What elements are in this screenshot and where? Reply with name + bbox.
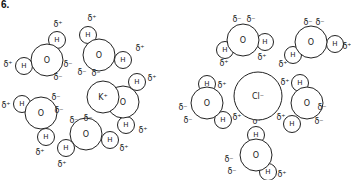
oxygen-label: O (308, 38, 314, 47)
delta-plus-label: δ⁺ (280, 78, 289, 87)
delta-minus-label: δ⁻ (63, 60, 72, 69)
hydrogen-label: H (107, 136, 112, 144)
delta-minus-label: δ⁻ (178, 103, 187, 112)
delta-minus-label: δ⁻ (224, 155, 233, 164)
delta-minus-label: δ⁻ (91, 69, 100, 78)
ion-hydration-drawing: HHOδ⁺δ⁺δ⁻δ⁻HHOδ⁺δ⁺δ⁻δ⁻HHOδ⁺δ⁺δ⁻δ⁻HHOδ⁺δ⁺… (0, 0, 351, 180)
hydrogen-label: H (222, 46, 227, 54)
delta-plus-label: δ⁺ (342, 42, 351, 51)
oxygen-label: O (83, 130, 89, 139)
delta-minus-label: δ⁻ (232, 15, 241, 24)
hydrogen-label: H (297, 79, 302, 87)
delta-plus-label: δ⁺ (53, 20, 62, 29)
delta-minus-label: δ⁻ (227, 167, 236, 176)
hydrogen-label: H (63, 144, 68, 152)
oxygen-label: O (96, 51, 102, 60)
oxygen-label: O (38, 109, 44, 118)
delta-plus-label: δ⁺ (217, 81, 226, 90)
delta-plus-label: δ⁺ (87, 14, 96, 23)
delta-minus-label: δ⁻ (315, 18, 324, 27)
water-molecule: HHOδ⁺δ⁺δ⁻δ⁻ (3, 20, 72, 82)
delta-plus-label: δ⁺ (119, 144, 128, 153)
hydrogen-label: H (120, 56, 125, 64)
delta-minus-label: δ⁻ (317, 103, 326, 112)
delta-plus-label: δ⁺ (232, 113, 241, 122)
water-molecule: HHOδ⁺δ⁺δ⁻δ⁻ (217, 15, 274, 68)
oxygen-label: O (204, 99, 210, 108)
hydrogen-label: H (265, 168, 270, 176)
delta-plus-label: δ⁺ (276, 113, 285, 122)
hydrogen-label: H (290, 51, 295, 59)
delta-minus-label: δ⁻ (303, 18, 312, 27)
delta-plus-label: δ⁺ (35, 148, 44, 157)
delta-plus-label: δ⁺ (219, 59, 228, 68)
oxygen-label: O (44, 56, 50, 65)
delta-minus-label: δ⁻ (246, 15, 255, 24)
hydrogen-label: H (220, 116, 225, 124)
cluster-0: HHOδ⁺δ⁺δ⁻δ⁻HHOδ⁺δ⁺δ⁻δ⁻HHOδ⁺δ⁺δ⁻δ⁻HHOδ⁺δ⁺… (1, 14, 156, 169)
hydrogen-label: H (253, 131, 258, 139)
hydrogen-label: H (262, 38, 267, 46)
hydrogen-label: H (123, 121, 128, 129)
delta-minus-label: δ⁻ (77, 68, 86, 77)
hydrogen-label: H (43, 133, 48, 141)
figure-number: 6. (1, 0, 9, 10)
water-molecule: HHOδ⁺δ⁺δ⁻δ⁻ (178, 76, 241, 129)
delta-minus-label: δ⁻ (54, 106, 63, 115)
delta-plus-label: δ⁺ (57, 160, 66, 169)
delta-minus-label: δ⁻ (183, 116, 192, 125)
delta-plus-label: δ⁺ (138, 126, 147, 135)
hydrogen-label: H (85, 31, 90, 39)
delta-plus-label: δ⁺ (1, 101, 10, 110)
oxygen-label: O (304, 99, 310, 108)
oxygen-label: O (253, 151, 259, 160)
hydrogen-label: H (19, 100, 24, 108)
delta-plus-label: δ⁺ (257, 53, 266, 62)
water-molecule: HHOδ⁺δ⁺δ⁻δ⁻ (276, 75, 326, 133)
ion-label: Cl⁻ (252, 92, 264, 101)
water-molecule: HHOδ⁺δ⁺δ⁻δ⁻ (1, 93, 63, 157)
cluster-1: HHOδ⁺δ⁺δ⁻δ⁻HHOδ⁺δ⁺δ⁻δ⁻HHOδ⁺δ⁺δ⁻δ⁻HHOδ⁺δ⁺… (178, 15, 351, 181)
delta-minus-label: δ⁻ (51, 93, 60, 102)
hydrogen-label: H (289, 120, 294, 128)
delta-minus-label: δ⁻ (69, 116, 78, 125)
hydrogen-label: H (332, 40, 337, 48)
water-molecule: HHOδ⁺δ⁺δ⁻δ⁻ (77, 14, 144, 78)
delta-plus-label: δ⁺ (3, 60, 12, 69)
hydrogen-label: H (134, 78, 139, 86)
delta-plus-label: δ⁺ (278, 60, 287, 69)
hydration-diagram: 6. HHOδ⁺δ⁺δ⁻δ⁻HHOδ⁺δ⁺δ⁻δ⁻HHOδ⁺δ⁺δ⁻δ⁻HHOδ… (0, 0, 351, 180)
delta-plus-label: δ⁺ (147, 74, 156, 83)
delta-minus-label: δ⁻ (314, 117, 323, 126)
water-molecule: HHOδ⁺δ⁺δ⁻δ⁻ (278, 18, 351, 69)
ion-label: K⁺ (98, 93, 107, 102)
oxygen-label: O (240, 36, 246, 45)
oxygen-label: O (120, 98, 126, 107)
hydrogen-label: H (54, 36, 59, 44)
hydrogen-label: H (21, 62, 26, 70)
delta-plus-label: δ⁺ (135, 44, 144, 53)
delta-minus-label: δ⁻ (83, 114, 92, 123)
water-molecule: HHOδ⁺δ⁺δ⁻δ⁻ (224, 117, 286, 181)
delta-minus-label: δ⁻ (53, 73, 62, 82)
delta-plus-label: δ⁺ (277, 170, 286, 179)
